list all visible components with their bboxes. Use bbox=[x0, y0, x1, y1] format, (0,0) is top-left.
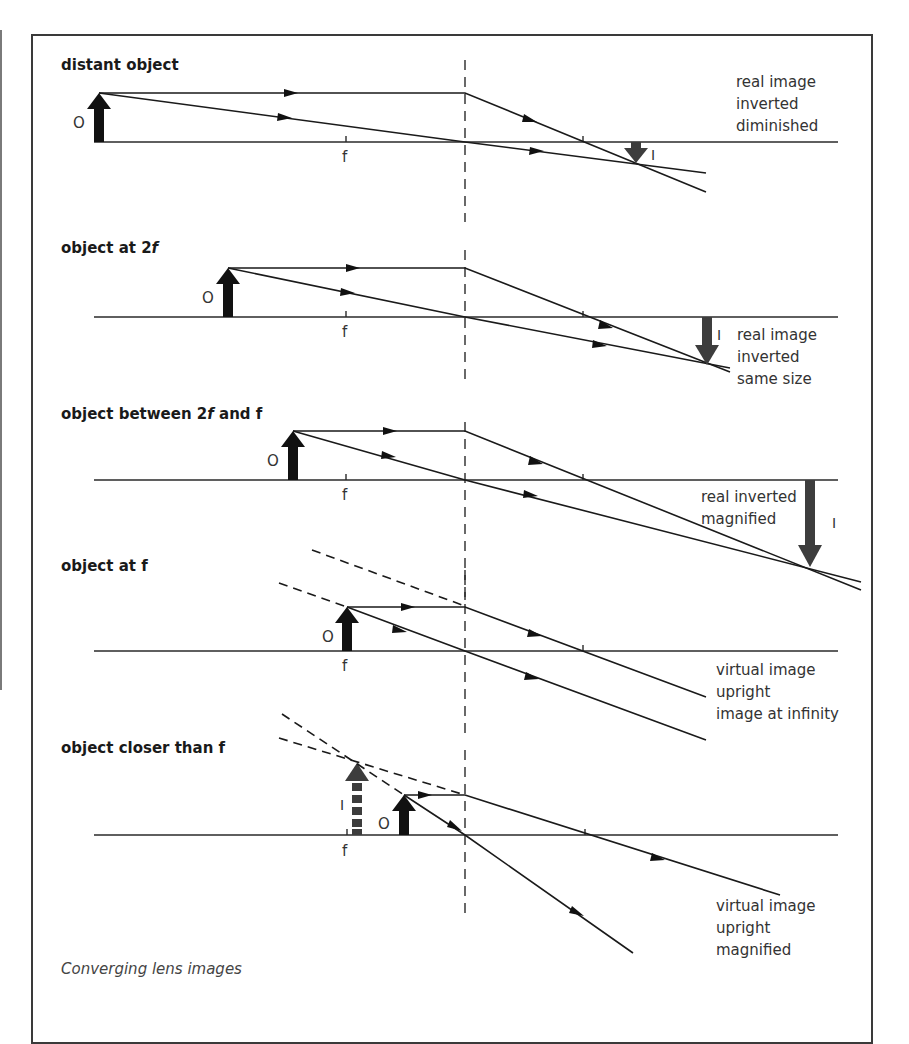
result-line: diminished bbox=[736, 117, 818, 135]
object-arrow bbox=[87, 93, 111, 142]
title-italic: f bbox=[152, 239, 161, 257]
result-line: upright bbox=[716, 683, 770, 701]
parallel-ray bbox=[404, 795, 780, 895]
image-label: I bbox=[717, 327, 721, 343]
focal-label: f bbox=[342, 657, 348, 675]
ray-arrowhead bbox=[277, 113, 292, 121]
image-label: I bbox=[832, 515, 836, 531]
result-line: magnified bbox=[716, 941, 791, 959]
title-prefix: object between 2 bbox=[61, 405, 207, 423]
ray-arrowhead bbox=[529, 147, 544, 155]
focal-label: f bbox=[342, 486, 348, 504]
object-label: O bbox=[322, 628, 334, 646]
panel-object-at-2f: object at 2f f O I real image inverted s… bbox=[61, 239, 838, 388]
result-line: upright bbox=[716, 919, 770, 937]
focal-label: f bbox=[342, 148, 348, 166]
panel-object-between-2f-and-f: object between 2f and f f O I real inver… bbox=[61, 405, 861, 600]
center-ray bbox=[293, 431, 861, 582]
result-line: image at infinity bbox=[716, 705, 839, 723]
ray-arrowhead bbox=[522, 114, 537, 122]
result-line: virtual image bbox=[716, 897, 815, 915]
panel-distant-object: distant object f O I real image inverted… bbox=[61, 56, 838, 222]
focal-label: f bbox=[342, 842, 348, 860]
image-arrow bbox=[695, 317, 719, 365]
image-label: I bbox=[651, 147, 655, 163]
object-label: O bbox=[73, 114, 85, 132]
panel-title: distant object bbox=[61, 56, 179, 74]
panel-object-at-f: object at f f O virtual image upright im… bbox=[61, 550, 839, 740]
object-label: O bbox=[202, 289, 214, 307]
ray-arrowhead bbox=[340, 288, 355, 296]
result-line: virtual image bbox=[716, 661, 815, 679]
ray-arrowhead bbox=[447, 820, 462, 831]
ray-arrowhead bbox=[381, 451, 396, 459]
ray-arrowhead bbox=[569, 906, 584, 916]
panel-title: object at f bbox=[61, 557, 148, 575]
virtual-image-arrow bbox=[345, 763, 369, 835]
center-ray bbox=[228, 268, 730, 368]
center-ray bbox=[404, 795, 633, 953]
image-arrow bbox=[798, 480, 822, 567]
result-line: real image bbox=[736, 73, 816, 91]
result-line: real inverted bbox=[701, 488, 797, 506]
panel-title: object closer than f bbox=[61, 739, 226, 757]
result-line: inverted bbox=[737, 348, 800, 366]
parallel-ray bbox=[347, 607, 706, 697]
result-line: real image bbox=[737, 326, 817, 344]
ray-arrowhead bbox=[346, 264, 360, 272]
object-arrow bbox=[216, 268, 240, 317]
ray-arrowhead bbox=[383, 427, 397, 435]
virtual-ray-extension bbox=[279, 583, 347, 607]
title-suffix: and f bbox=[214, 405, 263, 423]
result-line: same size bbox=[737, 370, 812, 388]
center-ray bbox=[99, 93, 706, 173]
panel-object-closer-than-f: object closer than f f I O v bbox=[61, 714, 838, 959]
panel-title: object at 2f bbox=[61, 239, 161, 257]
virtual-ray-extension bbox=[279, 738, 465, 795]
ray-arrowhead bbox=[401, 603, 415, 611]
ray-arrowhead bbox=[284, 89, 298, 97]
ray-arrowhead bbox=[528, 456, 543, 465]
virtual-ray-extension bbox=[282, 714, 404, 795]
object-label: O bbox=[267, 452, 279, 470]
panel-title: object between 2f and f bbox=[61, 405, 263, 423]
figure-caption: Converging lens images bbox=[61, 960, 242, 978]
image-label: I bbox=[340, 797, 344, 813]
object-arrow bbox=[335, 607, 359, 651]
ray-arrowhead bbox=[524, 672, 539, 680]
object-arrow bbox=[281, 431, 305, 480]
title-prefix: object at 2 bbox=[61, 239, 152, 257]
object-label: O bbox=[378, 815, 390, 833]
ray-arrowhead bbox=[527, 629, 542, 637]
virtual-ray-extension bbox=[312, 550, 465, 606]
result-line: inverted bbox=[736, 95, 799, 113]
focal-label: f bbox=[342, 323, 348, 341]
ray-arrowhead bbox=[418, 791, 432, 799]
result-line: magnified bbox=[701, 510, 776, 528]
ray-arrowhead bbox=[523, 490, 538, 498]
